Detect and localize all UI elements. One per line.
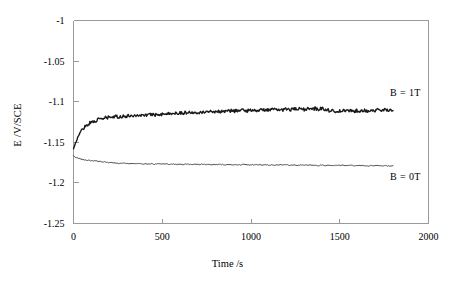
y-tick-label: -1	[56, 15, 64, 26]
y-tick-label: -1.2	[49, 177, 65, 188]
y-tick-label: -1.15	[44, 137, 65, 148]
x-tick-label: 1000	[241, 231, 261, 242]
series-annotation-label: B = 0T	[390, 171, 421, 182]
y-tick-label: -1.25	[44, 218, 65, 229]
x-tick-label: 0	[71, 231, 76, 242]
y-axis-label: E /V/SCE	[12, 103, 23, 146]
x-axis-label: Time /s	[0, 258, 455, 269]
x-tick-label: 2000	[419, 231, 439, 242]
x-tick-label: 1500	[330, 231, 350, 242]
y-tick-label: -1.05	[44, 56, 65, 67]
series-annotation-label: B = 1T	[390, 87, 421, 98]
x-tick-label: 500	[155, 231, 170, 242]
y-axis-label-wrapper: E /V/SCE	[6, 85, 28, 165]
chart-figure: 0500100015002000 -1-1.05-1.1-1.15-1.2-1.…	[0, 0, 455, 284]
chart-plot-area: 0500100015002000 -1-1.05-1.1-1.15-1.2-1.…	[0, 0, 455, 284]
y-tick-label: -1.1	[49, 96, 65, 107]
figure-background	[0, 0, 455, 284]
